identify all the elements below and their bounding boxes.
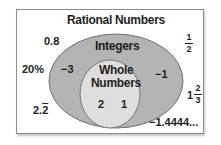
whole-numbers-title-line2: Numbers xyxy=(91,77,141,89)
rational-numbers-title: Rational Numbers xyxy=(67,14,165,26)
value-20-percent: 20% xyxy=(22,64,44,75)
value-neg-1-4444: −1.4444... xyxy=(149,117,198,128)
integers-title: Integers xyxy=(95,40,139,52)
value-0-8: 0.8 xyxy=(44,36,59,47)
value-one-half: 12 xyxy=(185,33,193,54)
value-2-2-repeating: 2.2 xyxy=(33,105,48,116)
value-two-thirds: 23 xyxy=(194,84,202,105)
value-neg-3: −3 xyxy=(61,64,74,75)
whole-numbers-title-line1: Whole xyxy=(99,64,134,76)
value-2: 2 xyxy=(98,99,104,110)
value-mixed-whole: 1 xyxy=(187,90,193,101)
value-1: 1 xyxy=(121,99,127,110)
value-neg-1: −1 xyxy=(155,69,168,80)
